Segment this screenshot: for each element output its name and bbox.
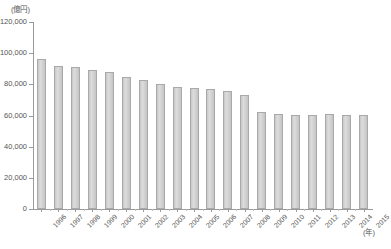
x-tick-minor-mark [270, 209, 271, 211]
x-tick-minor-mark [304, 209, 305, 211]
bar [173, 87, 182, 209]
x-tick-mark [313, 209, 314, 212]
y-tick-label: 100,000 [0, 49, 27, 57]
x-tick-label: 1999 [103, 213, 120, 230]
y-tick-label: 120,000 [0, 18, 27, 26]
x-tick-mark [245, 209, 246, 212]
x-tick-label: 2015 [374, 213, 391, 230]
bar [359, 115, 368, 209]
y-tick-label: 60,000 [4, 112, 27, 120]
bar [190, 88, 199, 209]
bar [71, 67, 80, 209]
x-tick-minor-mark [355, 209, 356, 211]
x-tick-minor-mark [50, 209, 51, 211]
x-tick-label: 2008 [255, 213, 272, 230]
x-tick-minor-mark [186, 209, 187, 211]
x-tick-mark [211, 209, 212, 212]
x-tick-mark [177, 209, 178, 212]
x-tick-mark [58, 209, 59, 212]
x-tick-mark [92, 209, 93, 212]
bar [257, 112, 266, 209]
x-tick-mark [296, 209, 297, 212]
bar [37, 59, 46, 209]
x-tick-mark [143, 209, 144, 212]
x-tick-label: 2007 [238, 213, 255, 230]
x-tick-mark [347, 209, 348, 212]
x-tick-label: 2013 [340, 213, 357, 230]
x-tick-mark [75, 209, 76, 212]
bar [122, 77, 131, 209]
x-tick-minor-mark [152, 209, 153, 211]
bar [223, 91, 232, 209]
y-axis-unit-label: (億円) [11, 5, 30, 14]
x-tick-mark [364, 209, 365, 212]
bar [156, 84, 165, 209]
x-tick-mark [109, 209, 110, 212]
x-tick-label: 2001 [137, 213, 154, 230]
x-tick-label: 2006 [222, 213, 239, 230]
x-tick-minor-mark [236, 209, 237, 211]
y-tick-mark [29, 209, 33, 210]
y-tick-label: 0 [23, 205, 27, 213]
x-tick-minor-mark [84, 209, 85, 211]
x-tick-mark [330, 209, 331, 212]
x-axis-unit-label: (年) [363, 228, 375, 237]
y-tick-label: 80,000 [4, 80, 27, 88]
x-tick-minor-mark [169, 209, 170, 211]
bar [105, 72, 114, 209]
bar [88, 70, 97, 209]
x-tick-minor-mark [203, 209, 204, 211]
x-tick-label: 2005 [205, 213, 222, 230]
x-tick-minor-mark [338, 209, 339, 211]
x-tick-label: 2002 [154, 213, 171, 230]
x-tick-label: 2004 [188, 213, 205, 230]
y-tick-mark [29, 84, 33, 85]
x-tick-minor-mark [321, 209, 322, 211]
y-tick-label: 40,000 [4, 143, 27, 151]
y-tick-mark [29, 22, 33, 23]
x-tick-minor-mark [101, 209, 102, 211]
x-tick-mark [262, 209, 263, 212]
y-tick-mark [29, 178, 33, 179]
plot-area: 020,00040,00060,00080,000100,000120,000 [33, 22, 372, 209]
x-tick-minor-mark [287, 209, 288, 211]
x-tick-mark [194, 209, 195, 212]
x-tick-label: 2012 [323, 213, 340, 230]
x-tick-minor-mark [219, 209, 220, 211]
x-tick-label: 2011 [306, 213, 322, 229]
y-tick-mark [29, 116, 33, 117]
y-tick-label: 20,000 [4, 174, 27, 182]
x-tick-mark [279, 209, 280, 212]
bar [54, 66, 63, 209]
bar [342, 115, 351, 209]
y-tick-mark [29, 147, 33, 148]
x-tick-mark [126, 209, 127, 212]
bar [139, 80, 148, 209]
y-tick-mark [29, 53, 33, 54]
x-tick-label: 1998 [86, 213, 103, 230]
x-tick-label: 1996 [52, 213, 69, 230]
bar [325, 114, 334, 209]
x-tick-minor-mark [135, 209, 136, 211]
bar [240, 95, 249, 209]
x-tick-label: 2009 [272, 213, 289, 230]
x-tick-minor-mark [67, 209, 68, 211]
x-tick-label: 1997 [69, 213, 86, 230]
x-tick-minor-mark [253, 209, 254, 211]
x-tick-mark [160, 209, 161, 212]
x-tick-minor-mark [118, 209, 119, 211]
bar [206, 89, 215, 209]
x-tick-label: 2010 [289, 213, 306, 230]
x-tick-label: 2003 [171, 213, 188, 230]
bar [308, 115, 317, 209]
bar [291, 115, 300, 209]
x-tick-label: 2000 [120, 213, 137, 230]
x-tick-mark [228, 209, 229, 212]
x-tick-mark [41, 209, 42, 212]
bar [274, 114, 283, 209]
